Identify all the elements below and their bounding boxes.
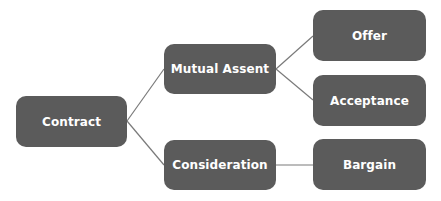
node-label: Consideration [172,158,268,172]
node-label: Offer [352,29,387,43]
node-acceptance: Acceptance [313,75,426,126]
edge-mutual-assent-acceptance [276,69,313,100]
node-mutual-assent: Mutual Assent [164,44,276,94]
node-contract: Contract [16,96,127,147]
node-label: Mutual Assent [171,62,269,76]
node-label: Bargain [343,158,396,172]
node-label: Acceptance [330,94,409,108]
node-consideration: Consideration [164,140,276,190]
edge-contract-consideration [127,121,164,165]
node-bargain: Bargain [313,139,426,190]
node-offer: Offer [313,10,426,61]
node-label: Contract [42,115,101,129]
edge-contract-mutual-assent [127,69,164,121]
edge-mutual-assent-offer [276,36,313,69]
contract-diagram: Contract Mutual Assent Consideration Off… [0,0,441,201]
